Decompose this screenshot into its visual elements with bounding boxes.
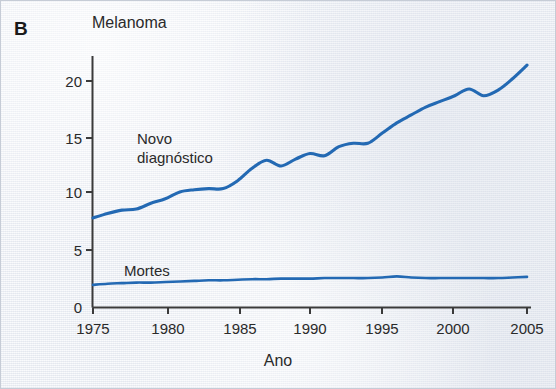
- data-series-group: [93, 65, 527, 285]
- plot-area: [0, 0, 556, 389]
- line-series-novo-diagnostico: [93, 65, 527, 218]
- axes-group: [86, 56, 531, 314]
- line-series-mortes: [93, 276, 527, 284]
- figure-panel: B Melanoma Taxa (por 100.000 pessoas) An…: [0, 0, 556, 389]
